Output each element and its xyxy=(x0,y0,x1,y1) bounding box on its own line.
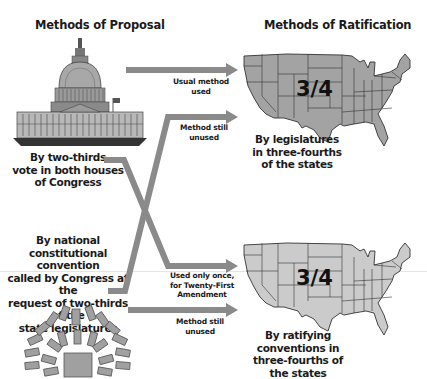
label-line: in three-fourths xyxy=(250,146,344,159)
us-map-conventions: 3/4 xyxy=(242,241,414,337)
arrow-congress-to-conventions xyxy=(104,160,228,266)
label-line: Used only once, xyxy=(160,271,244,281)
label-line: the states xyxy=(248,367,348,379)
label-line: unused xyxy=(165,327,235,337)
label-line: Method still xyxy=(165,317,235,327)
fraction-text: 3/4 xyxy=(296,77,333,101)
fraction-text: 3/4 xyxy=(296,266,333,290)
arrow-label-once: Used only once, for Twenty-First Amendme… xyxy=(160,271,244,300)
arrow-label-unused-2: Method still unused xyxy=(165,317,235,336)
label-line: Amendment xyxy=(160,290,244,300)
ratification-method-legislatures: By legislatures in three-fourths of the … xyxy=(250,133,344,171)
label-line: Usual method xyxy=(166,77,236,87)
label-line: unused xyxy=(169,133,239,143)
arrow-label-usual: Usual method used xyxy=(166,77,236,96)
label-line: of the states xyxy=(250,158,344,171)
label-line: used xyxy=(166,87,236,97)
label-line: for Twenty-First xyxy=(160,281,244,291)
label-line: conventions in xyxy=(248,342,348,355)
label-line: By ratifying xyxy=(248,329,348,342)
ratification-method-conventions: By ratifying conventions in three-fourth… xyxy=(248,329,348,379)
label-line: By legislatures xyxy=(250,133,344,146)
label-line: three-fourths of xyxy=(248,354,348,367)
label-line: Method still xyxy=(169,123,239,133)
arrow-label-unused-1: Method still unused xyxy=(169,123,239,142)
